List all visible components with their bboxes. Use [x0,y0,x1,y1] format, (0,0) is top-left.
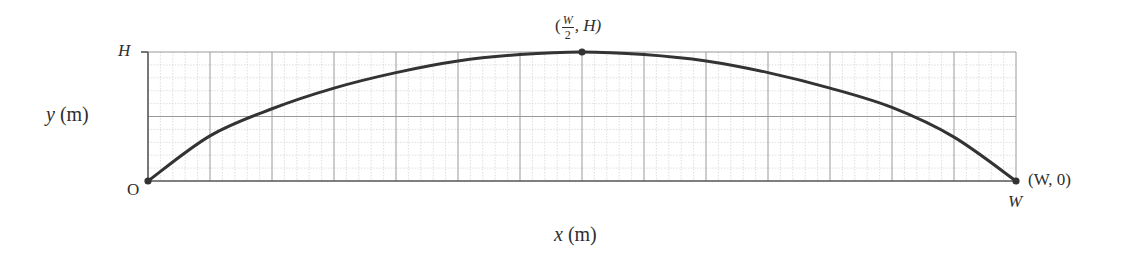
apex-label: (W2, H) [555,14,601,41]
apex-label-prefix: ( [555,16,561,35]
y-axis-label: y (m) [46,104,89,124]
y-axis-variable: y [46,103,55,125]
landing-point-marker [1012,177,1019,184]
apex-fraction-denominator: 2 [562,28,574,41]
x-axis-unit: (m) [568,223,597,245]
apex-fraction-numerator: W [562,14,574,28]
y-axis-unit: (m) [60,103,89,125]
landing-label-text: (W, 0) [1028,170,1071,189]
apex-label-suffix: , H) [575,16,601,35]
origin-point-marker [144,177,151,184]
x-tick-label-W: W [1008,193,1022,210]
major-grid [148,52,1016,181]
landing-label: (W, 0) [1028,171,1071,188]
y-tick-label-H: H [118,42,130,59]
origin-label: O [127,181,139,198]
apex-fraction: W2 [562,14,574,41]
x-axis-variable: x [554,223,563,245]
x-axis-label: x (m) [554,224,597,244]
apex-point-marker [578,48,585,55]
